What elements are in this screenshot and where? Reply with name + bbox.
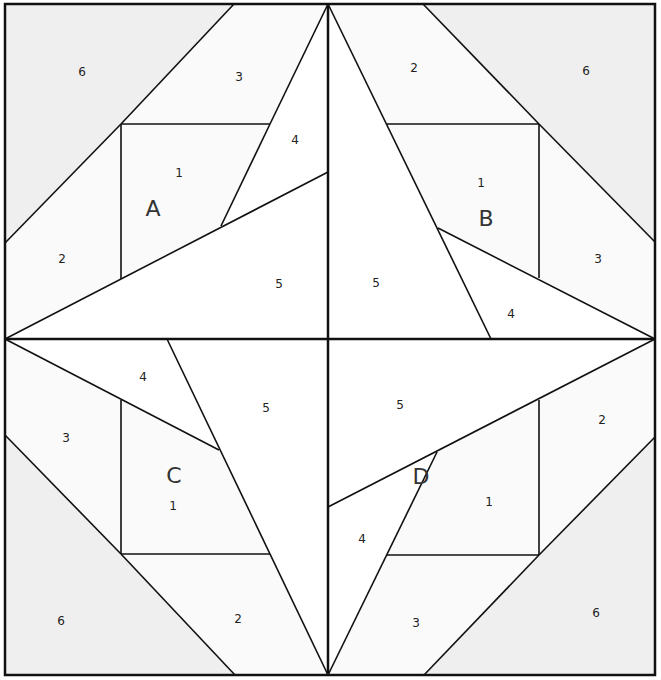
piece-number-label: 5 (372, 277, 380, 289)
piece-number-label: 6 (592, 607, 600, 619)
piece-number-label: 4 (139, 371, 147, 383)
piece-number-label: 2 (234, 613, 242, 625)
piece-number-label: 5 (262, 402, 270, 414)
piece-number-label: 3 (412, 617, 420, 629)
piece-number-label: 6 (57, 615, 65, 627)
piece-number-label: 1 (477, 177, 485, 189)
block-letter-label: C (166, 465, 181, 487)
piece-number-label: 3 (594, 253, 602, 265)
piece-number-label: 5 (396, 399, 404, 411)
piece-number-label: 1 (485, 496, 493, 508)
piece-number-label: 6 (582, 65, 590, 77)
piece-number-label: 3 (62, 432, 70, 444)
quilt-pattern-graphic (0, 0, 661, 680)
piece-number-label: 4 (358, 533, 366, 545)
piece-number-label: 5 (275, 278, 283, 290)
piece-number-label: 3 (235, 71, 243, 83)
block-letter-label: B (478, 208, 493, 230)
piece-number-label: 2 (598, 414, 606, 426)
piece-number-label: 1 (175, 167, 183, 179)
piece-number-label: 2 (410, 62, 418, 74)
paper-piecing-quilt-block-diagram: 634125261354453162521436ABCD (0, 0, 661, 680)
piece-number-label: 6 (78, 66, 86, 78)
piece-number-label: 4 (507, 308, 515, 320)
piece-number-label: 1 (169, 500, 177, 512)
block-letter-label: A (145, 198, 160, 220)
block-letter-label: D (413, 466, 430, 488)
piece-number-label: 4 (291, 134, 299, 146)
piece-number-label: 2 (58, 253, 66, 265)
